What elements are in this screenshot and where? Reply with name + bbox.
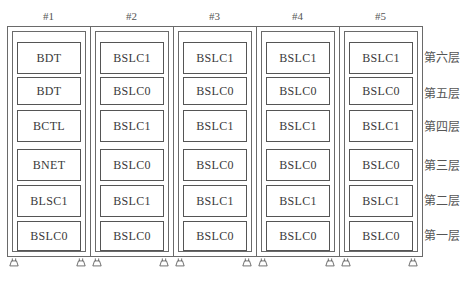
rack-foot-icon — [76, 258, 86, 268]
rack-inner-frame: BDTBDTBCTLBNETBLSC1BSLC0 — [12, 31, 86, 252]
layer-label: 第五层 — [424, 84, 460, 101]
rack-foot-icon — [92, 258, 102, 268]
rack-foot-icon — [175, 258, 185, 268]
rack-module: BLSC1 — [17, 185, 81, 217]
rack-module: BDT — [17, 77, 81, 105]
rack-module: BSLC1 — [183, 185, 247, 217]
layer-label: 第二层 — [424, 191, 460, 208]
rack-module: BSLC0 — [100, 149, 164, 181]
rack-inner-frame: BSLC1BSLC0BSLC1BSLC0BSLC1BSLC0 — [178, 31, 252, 252]
rack-number-label: #1 — [7, 10, 90, 22]
rack-module: BSLC1 — [266, 42, 330, 74]
rack-foot-icon — [159, 258, 169, 268]
rack-foot-icon — [242, 258, 252, 268]
rack-number-label: #2 — [90, 10, 173, 22]
rack-module: BSLC0 — [349, 149, 413, 181]
rack-number-label: #3 — [173, 10, 256, 22]
rack-cabinet: BSLC1BSLC0BSLC1BSLC0BSLC1BSLC0 — [90, 26, 174, 257]
rack-module: BSLC0 — [100, 77, 164, 105]
rack-foot-icon — [325, 258, 335, 268]
rack-module: BSLC0 — [17, 221, 81, 251]
rack-module: BSLC0 — [266, 77, 330, 105]
rack-module: BSLC0 — [266, 221, 330, 251]
rack-inner-frame: BSLC1BSLC0BSLC1BSLC0BSLC1BSLC0 — [95, 31, 169, 252]
rack-module: BSLC0 — [349, 77, 413, 105]
rack-module: BSLC0 — [100, 221, 164, 251]
rack-module: BSLC1 — [266, 185, 330, 217]
rack-module: BDT — [17, 42, 81, 74]
rack-module: BSLC0 — [183, 77, 247, 105]
rack-cabinet: BSLC1BSLC0BSLC1BSLC0BSLC1BSLC0 — [339, 26, 423, 257]
rack-cabinet: BSLC1BSLC0BSLC1BSLC0BSLC1BSLC0 — [173, 26, 257, 257]
rack-module: BSLC1 — [349, 110, 413, 142]
rack-module: BSLC0 — [183, 149, 247, 181]
rack-inner-frame: BSLC1BSLC0BSLC1BSLC0BSLC1BSLC0 — [344, 31, 418, 252]
rack-module: BSLC1 — [100, 185, 164, 217]
rack-module: BSLC0 — [183, 221, 247, 251]
rack-inner-frame: BSLC1BSLC0BSLC1BSLC0BSLC1BSLC0 — [261, 31, 335, 252]
rack-module: BSLC1 — [183, 42, 247, 74]
rack-module: BSLC1 — [349, 42, 413, 74]
rack-module: BSLC0 — [349, 221, 413, 251]
rack-module: BSLC1 — [100, 110, 164, 142]
layer-label: 第六层 — [424, 48, 460, 65]
layer-label: 第四层 — [424, 117, 460, 134]
rack-foot-icon — [341, 258, 351, 268]
rack-cabinet: BDTBDTBCTLBNETBLSC1BSLC0 — [7, 26, 91, 257]
rack-module: BSLC1 — [349, 185, 413, 217]
rack-module: BSLC1 — [100, 42, 164, 74]
rack-foot-icon — [9, 258, 19, 268]
rack-foot-icon — [408, 258, 418, 268]
layer-label: 第三层 — [424, 156, 460, 173]
rack-cabinet: BSLC1BSLC0BSLC1BSLC0BSLC1BSLC0 — [256, 26, 340, 257]
rack-number-label: #5 — [339, 10, 422, 22]
rack-module: BCTL — [17, 110, 81, 142]
rack-module: BSLC1 — [266, 110, 330, 142]
rack-foot-icon — [258, 258, 268, 268]
rack-number-label: #4 — [256, 10, 339, 22]
rack-module: BSLC0 — [266, 149, 330, 181]
rack-module: BNET — [17, 149, 81, 181]
rack-module: BSLC1 — [183, 110, 247, 142]
layer-label: 第一层 — [424, 226, 460, 243]
